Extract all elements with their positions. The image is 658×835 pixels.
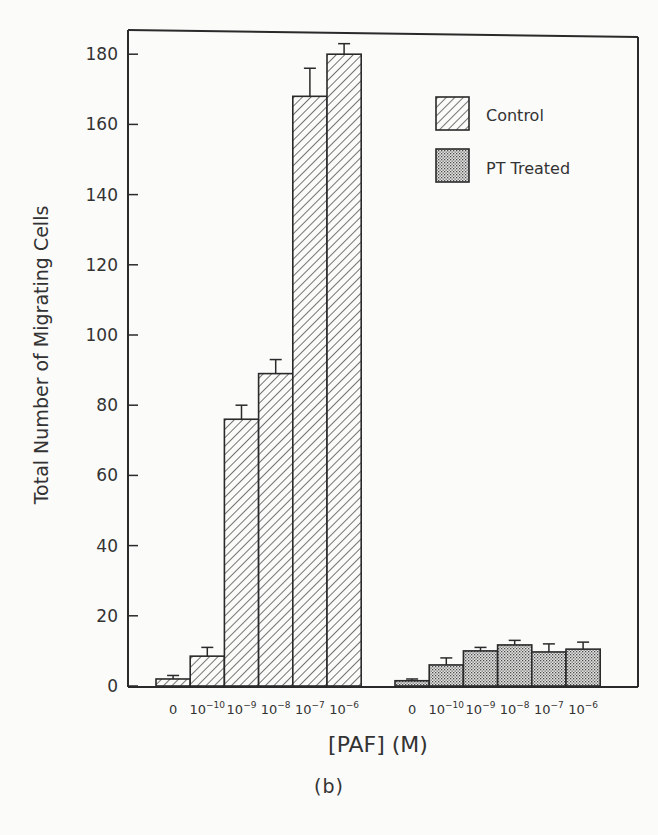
- x-axis-label: [PAF] (M): [328, 732, 428, 757]
- bar: [566, 649, 600, 686]
- plot-frame: [128, 30, 638, 687]
- x-tick-label: 10−7: [295, 700, 325, 717]
- x-tick-label: 10−6: [329, 700, 359, 717]
- y-tick-label: 0: [107, 676, 118, 696]
- bar: [498, 645, 532, 686]
- y-tick-label: 140: [86, 185, 118, 205]
- bars: [156, 44, 600, 686]
- x-tick-label: 0: [169, 702, 177, 717]
- bar: [259, 374, 293, 686]
- bar: [293, 96, 327, 686]
- x-tick-label: 0: [408, 702, 416, 717]
- x-tick-label: 10−8: [261, 700, 291, 717]
- x-axis-tick-labels: 010−1010−910−810−710−6010−1010−910−810−7…: [169, 700, 598, 717]
- bar: [532, 652, 566, 686]
- y-tick-label: 80: [96, 395, 118, 415]
- x-tick-label: 10−6: [568, 700, 598, 717]
- bar: [429, 665, 463, 686]
- bar: [224, 419, 258, 686]
- legend-swatch-stipple: [436, 149, 469, 182]
- x-tick-label: 10−10: [429, 700, 465, 717]
- legend-swatch-hatch: [436, 97, 469, 130]
- y-tick-label: 120: [86, 255, 118, 275]
- y-tick-label: 20: [96, 606, 118, 626]
- series-control: [156, 44, 361, 686]
- x-tick-label: 10−10: [190, 700, 226, 717]
- legend-item-control: Control: [436, 97, 544, 130]
- bar: [190, 656, 224, 686]
- x-tick-label: 10−9: [227, 700, 257, 717]
- bar-chart: 020406080100120140160180 010−1010−910−81…: [0, 0, 658, 835]
- x-tick-label: 10−7: [534, 700, 564, 717]
- bar: [327, 54, 361, 686]
- y-tick-label: 40: [96, 536, 118, 556]
- series-pt-treated: [395, 640, 600, 686]
- y-tick-label: 100: [86, 325, 118, 345]
- y-tick-label: 180: [86, 44, 118, 64]
- legend-label-pt-treated: PT Treated: [486, 159, 570, 178]
- panel-label: (b): [0, 775, 658, 797]
- legend-item-pt-treated: PT Treated: [436, 149, 570, 182]
- bar: [395, 681, 429, 686]
- legend-label-control: Control: [486, 106, 544, 125]
- y-tick-label: 160: [86, 114, 118, 134]
- bar: [463, 651, 497, 686]
- bar: [156, 679, 190, 686]
- y-axis-ticks: 020406080100120140160180: [86, 44, 138, 696]
- y-axis-label: Total Number of Migrating Cells: [30, 206, 52, 506]
- x-tick-label: 10−9: [466, 700, 496, 717]
- y-tick-label: 60: [96, 465, 118, 485]
- x-tick-label: 10−8: [500, 700, 530, 717]
- legend: Control PT Treated: [436, 97, 570, 182]
